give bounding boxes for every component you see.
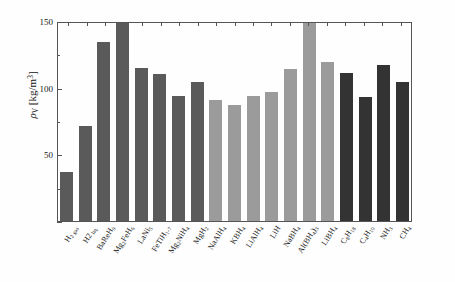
bar	[79, 126, 92, 221]
x-tick-mark	[345, 22, 346, 26]
bar	[191, 82, 204, 221]
bar-series	[58, 23, 411, 221]
bar	[321, 62, 334, 221]
bar	[359, 97, 372, 221]
x-tick-mark	[216, 22, 217, 26]
x-tick-mark	[308, 22, 309, 26]
bar	[153, 74, 166, 221]
bar	[209, 100, 222, 221]
x-tick-label: KBH4	[228, 224, 247, 246]
x-tick-mark	[161, 22, 162, 26]
x-tick-mark	[179, 22, 180, 26]
x-tick-mark	[290, 22, 291, 26]
x-tick-mark	[105, 22, 106, 26]
x-tick-mark	[235, 22, 236, 26]
x-tick-mark	[364, 22, 365, 26]
bar	[340, 73, 353, 221]
y-tick-label-50: 50	[44, 150, 53, 160]
x-tick-mark	[68, 22, 69, 26]
bar	[116, 22, 129, 221]
x-tick-label: H2 gas	[63, 224, 80, 244]
bar	[97, 42, 110, 221]
x-tick-label: MgH2	[191, 224, 210, 246]
x-tick-label: LiH	[268, 224, 283, 240]
bar	[396, 82, 409, 221]
plot-area	[57, 22, 412, 222]
x-tick-mark	[124, 22, 125, 26]
bar	[60, 172, 73, 221]
x-tick-mark	[142, 22, 143, 26]
x-tick-mark	[198, 22, 199, 26]
bar	[265, 92, 278, 221]
y-tick-mark-0	[57, 222, 62, 223]
y-tick-label-100: 100	[40, 84, 54, 94]
chart-figure: ρV [kg/m3] 150 100 50 H2 gasH2 liq.BaReH…	[0, 0, 455, 282]
x-tick-label: C8H18	[339, 224, 357, 246]
x-tick-label: H2 liq.	[81, 224, 99, 245]
x-tick-mark	[382, 22, 383, 26]
bar	[247, 96, 260, 221]
x-tick-mark	[87, 22, 88, 26]
x-tick-mark	[253, 22, 254, 26]
x-tick-label: NH3	[379, 224, 395, 241]
bar	[135, 68, 148, 221]
x-tick-mark	[271, 22, 272, 26]
x-tick-mark	[327, 22, 328, 26]
x-tick-label: C4H10	[357, 224, 375, 246]
y-axis-tick-labels: 150 100 50	[20, 0, 53, 282]
bar	[172, 96, 185, 221]
x-axis-tick-labels: H2 gasH2 liq.BaReH9Mg2FeH6LaNi5FeTiH1.7M…	[57, 224, 412, 282]
x-tick-mark	[401, 22, 402, 26]
bar	[228, 105, 241, 221]
x-tick-label: LiBH4	[319, 224, 338, 247]
x-tick-label: CH4	[397, 224, 412, 241]
bar	[303, 22, 316, 221]
x-tick-label: LiAlH4	[244, 224, 265, 249]
x-tick-label: LaNi5	[136, 224, 154, 246]
bar	[284, 69, 297, 221]
bar	[377, 65, 390, 221]
y-tick-label-150: 150	[40, 17, 54, 27]
